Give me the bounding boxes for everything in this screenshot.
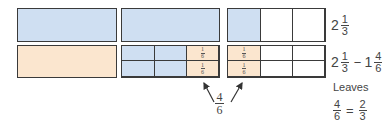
arrow-right-icon — [231, 83, 242, 102]
arrow-fraction: 46 — [213, 86, 226, 120]
leaves-text: Leaves — [333, 81, 368, 93]
result-equation: 46 = 23 — [331, 96, 369, 124]
arrows — [0, 0, 386, 126]
